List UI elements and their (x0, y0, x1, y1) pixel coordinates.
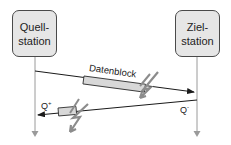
positive-ack-sup: + (48, 100, 52, 106)
source-station-label-line2: station (18, 34, 50, 48)
target-station-box: Ziel- station (175, 10, 220, 57)
source-lifeline (32, 57, 39, 137)
lightning-icon (70, 99, 88, 132)
negative-ack-label: Q- (180, 104, 189, 115)
negative-ack-base: Q (180, 105, 187, 115)
target-station-label-line1: Ziel- (181, 20, 213, 34)
source-station-label-line1: Quell- (18, 20, 50, 34)
diagram-canvas: Quell- station Ziel- station Datenblock … (0, 0, 231, 145)
target-lifeline (194, 57, 201, 137)
positive-ack-base: Q (41, 101, 48, 111)
target-station-label-line2: station (181, 34, 213, 48)
positive-ack-label: Q+ (41, 100, 52, 111)
negative-ack-sup: - (187, 104, 189, 110)
source-station-box: Quell- station (12, 10, 57, 57)
